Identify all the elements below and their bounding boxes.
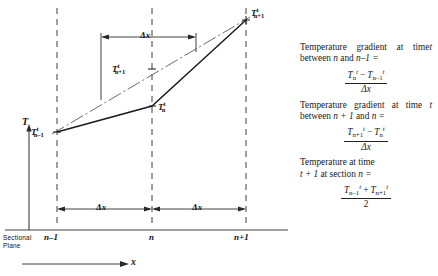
formula-text: Temperature at time t + 1 at section n = — [300, 157, 432, 180]
subscript: n–1 — [372, 74, 382, 81]
point-label-sub: n — [162, 106, 166, 113]
word: Temperature — [300, 100, 347, 110]
bottom-dim-arrow-r2 — [238, 207, 246, 212]
word: at — [397, 42, 404, 52]
point-label-T-n-plus-1-t: Ttn+1 — [251, 6, 264, 19]
fraction: Tn+1t−Tnt Δx — [344, 123, 387, 153]
symbol-t: t — [429, 100, 432, 110]
fraction: Tn–1t+Tn+1t 2 — [341, 181, 391, 211]
word: and — [340, 53, 353, 63]
formula-item-gradient-n-to-n-minus-1: Temperature gradient at timet between n … — [300, 42, 432, 96]
superscript: t — [383, 68, 385, 75]
fraction-denominator: 2 — [341, 199, 391, 210]
word: between — [300, 53, 331, 63]
tick-n-plus-1: n+1 — [234, 232, 249, 242]
formula-item-gradient-n-plus-1-to-n: Temperature gradient at time t between n… — [300, 100, 432, 154]
top-dim-arrow-right — [188, 35, 196, 40]
formula-text: Temperature gradient at time t between n… — [300, 100, 432, 123]
word: at section — [320, 169, 355, 179]
subscript: n — [379, 131, 382, 138]
point-label-sub: n+1 — [115, 68, 126, 75]
word: Temperature — [300, 42, 347, 52]
top-dim-arrow-left — [101, 35, 109, 40]
symbol-n-minus-1: n–1 = — [356, 53, 379, 63]
word: and — [356, 111, 369, 121]
subscript: n–1 — [349, 189, 359, 196]
sectional-plane-line1: Sectional — [3, 234, 32, 242]
fraction-numerator: Tnt−Tn–1t — [345, 66, 388, 84]
fraction-denominator: Δx — [345, 84, 388, 95]
symbol-n: n — [333, 53, 338, 63]
symbol-t: t — [429, 42, 432, 52]
fraction-denominator: Δx — [344, 142, 387, 153]
bottom-dim-arrow-l2 — [144, 207, 152, 212]
superscript: t — [386, 183, 388, 190]
symbol-t-plus-1: t + 1 — [300, 169, 318, 179]
fraction-numerator: Tn–1t+Tn+1t — [341, 181, 391, 199]
word: at — [392, 100, 399, 110]
word: between — [300, 111, 331, 121]
operator-minus: − — [365, 127, 374, 137]
delta-x-right: Δx — [192, 202, 202, 212]
formula-item-temperature-at-time-t-plus-1: Temperature at time t + 1 at section n =… — [300, 157, 432, 211]
superscript: t — [383, 125, 385, 132]
point-label-T-n-t: Ttn — [158, 100, 165, 113]
delta-x-left: Δx — [96, 202, 106, 212]
tick-n-minus-1: n–1 — [44, 232, 58, 242]
point-label-T-n-minus-1-t: Ttn–1 — [31, 125, 44, 138]
point-label-T-n-plus-1-t-mid: Ttn+1 — [112, 62, 125, 75]
axis-label-T: T — [22, 116, 28, 127]
sectional-plane-caption: Sectional Plane — [3, 234, 32, 250]
sectional-plane-line2: Plane — [3, 242, 32, 250]
word: gradient — [354, 100, 384, 110]
symbol-n: n = — [358, 169, 371, 179]
word: time — [406, 100, 423, 110]
formula-text: Temperature gradient at timet between n … — [300, 42, 432, 65]
subscript: n+1 — [352, 131, 363, 138]
subscript: n+1 — [376, 189, 387, 196]
word: Temperature at time — [300, 157, 375, 167]
chord-dash-dot — [52, 17, 250, 134]
symbol-n-plus-1: n + 1 — [333, 111, 353, 121]
fraction: Tnt−Tn–1t Δx — [345, 66, 388, 96]
point-label-sub: n+1 — [254, 12, 265, 19]
fraction-numerator: Tn+1t−Tnt — [344, 123, 387, 141]
symbol-n: n = — [372, 111, 385, 121]
axis-label-x: x — [131, 257, 136, 267]
formula-panel: Temperature gradient at timet between n … — [300, 42, 432, 215]
bottom-dim-arrow-r1 — [152, 207, 160, 212]
word: time — [413, 42, 430, 52]
point-label-sub: n–1 — [34, 131, 44, 138]
x-axis-arrowhead — [120, 261, 129, 267]
word: gradient — [356, 42, 386, 52]
operator-minus: − — [358, 70, 367, 80]
schmidt-plot-figure: T x Sectional Plane n–1 n n+1 Δx Δx Δx T… — [0, 0, 290, 276]
tick-n: n — [149, 232, 154, 242]
delta-x-top: Δx — [140, 30, 150, 40]
bottom-dim-arrow-l1 — [57, 207, 65, 212]
